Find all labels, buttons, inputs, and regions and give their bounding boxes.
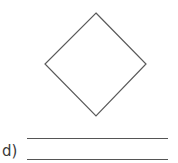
- diamond-shape: [0, 0, 178, 130]
- answer-line-2[interactable]: [27, 159, 168, 160]
- answer-line-1[interactable]: [27, 138, 168, 139]
- question-label: d): [2, 142, 17, 160]
